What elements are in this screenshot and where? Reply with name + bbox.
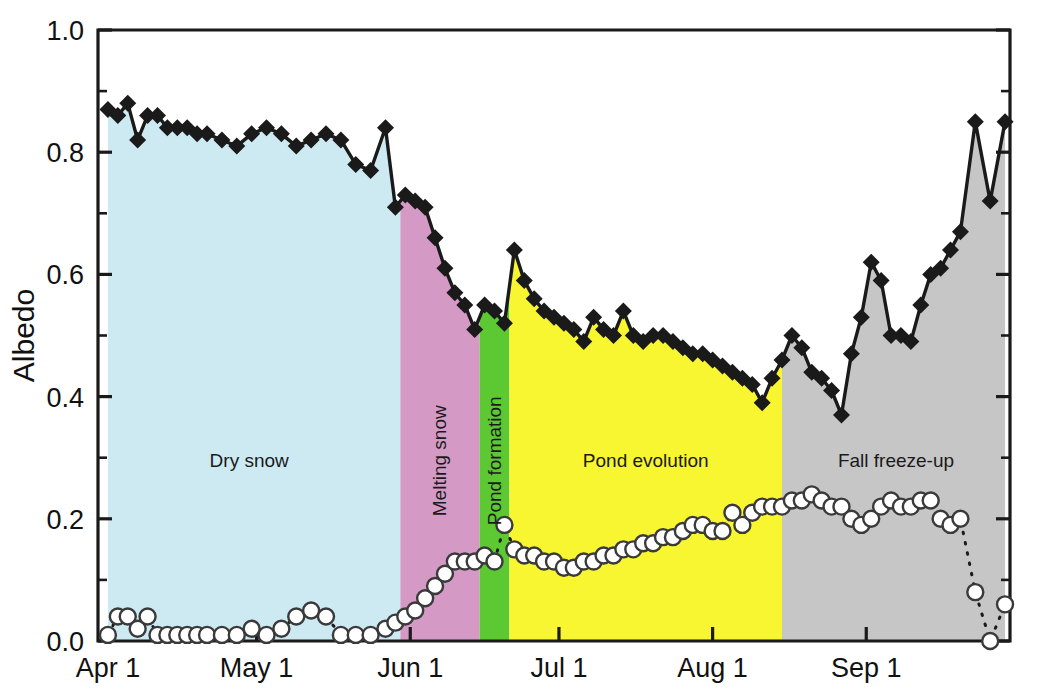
pond-fraction-point [923, 492, 939, 508]
y-tick-label: 0.6 [46, 260, 84, 290]
albedo-point [863, 254, 880, 271]
y-tick-label: 0.4 [46, 383, 84, 413]
pond-fraction-point [259, 627, 275, 643]
pond-fraction-point [318, 609, 334, 625]
pond-fraction-point [363, 627, 379, 643]
pond-fraction-point [288, 609, 304, 625]
pond-fraction-point [333, 627, 349, 643]
albedo-point [967, 113, 984, 130]
pond-fraction-point [303, 602, 319, 618]
pond-fraction-point [100, 627, 116, 643]
albedo-point [506, 241, 523, 258]
pond-fraction-point [997, 596, 1013, 612]
y-tick-label: 1.0 [46, 16, 84, 46]
pond-fraction-point [715, 523, 731, 539]
pond-fraction-point [487, 554, 503, 570]
albedo-pond-fraction-chart: 0.00.20.40.60.81.0 Apr 1May 1Jun 1Jul 1A… [0, 0, 1037, 699]
x-tick-label: May 1 [220, 653, 294, 683]
y-tick-label: 0.8 [46, 138, 84, 168]
pond-fraction-point [140, 609, 156, 625]
pond-fraction-point [348, 627, 364, 643]
chart-svg: 0.00.20.40.60.81.0 Apr 1May 1Jun 1Jul 1A… [0, 0, 1037, 699]
region-label-1: Melting snow [429, 405, 450, 516]
albedo-point [615, 303, 632, 320]
pond-fraction-point [244, 621, 260, 637]
x-tick-label: Aug 1 [677, 653, 748, 683]
region-bands [98, 30, 1010, 641]
x-tick-label: Apr 1 [76, 653, 141, 683]
x-tick-label: Jun 1 [377, 653, 443, 683]
region-label-2: Pond formation [484, 396, 505, 525]
region-label-0: Dry snow [210, 450, 289, 471]
region-band-1 [400, 30, 479, 641]
pond-fraction-point [199, 627, 215, 643]
x-tick-label: Jul 1 [530, 653, 587, 683]
albedo-point [377, 119, 394, 136]
pond-fraction-point [214, 627, 230, 643]
region-label-4: Fall freeze-up [838, 450, 954, 471]
pond-fraction-point [967, 584, 983, 600]
pond-fraction-point [273, 621, 289, 637]
pond-fraction-point [229, 627, 245, 643]
y-axis-title-label: Albedo [7, 289, 40, 382]
region-label-3: Pond evolution [583, 450, 709, 471]
pond-fraction-point [982, 633, 998, 649]
y-axis-title: Albedo [7, 289, 40, 382]
x-tick-label: Sep 1 [831, 653, 902, 683]
pond-fraction-point [952, 511, 968, 527]
y-tick-label: 0.2 [46, 505, 84, 535]
